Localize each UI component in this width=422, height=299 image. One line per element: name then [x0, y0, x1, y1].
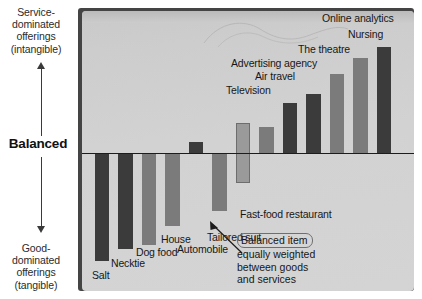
axis-bottom-line1: Good- [0, 242, 74, 254]
bar-air-travel [283, 103, 298, 153]
axis-top-line1: Service- [0, 6, 74, 18]
axis-bottom-line3: offerings [0, 266, 74, 278]
bar-label-advertising-agency: Advertising agency [231, 57, 317, 69]
bar-online-analytics [377, 47, 392, 153]
bar-nursing [353, 58, 368, 153]
callout-line-1: Balanced item [237, 233, 313, 248]
bar-house [165, 153, 180, 226]
bar-label-dog-food: Dog food [136, 246, 177, 258]
bar-tailored-suit [212, 153, 227, 211]
bar-label-fast-food-restaurant: Fast-food restaurant [240, 208, 332, 220]
bar-automobile [189, 142, 204, 153]
bar-label-necktie: Necktie [111, 257, 145, 269]
axis-label-top: Service- dominated offerings (intangible… [0, 6, 74, 55]
balanced-baseline [82, 153, 414, 154]
bar-salt [95, 153, 110, 261]
bar-the-theatre [330, 74, 345, 153]
chart-figure: Service- dominated offerings (intangible… [0, 0, 422, 299]
callout-line-3: between goods [237, 261, 308, 273]
axis-bottom-line2: dominated [0, 254, 74, 266]
axis-bottom-line4: (tangible) [0, 279, 74, 291]
arrow-down-shaft [41, 157, 42, 229]
arrow-down-icon [37, 226, 45, 233]
bar-label-automobile: Automobile [177, 243, 228, 255]
axis-top-line2: dominated [0, 18, 74, 30]
callout-line-4: and services [237, 273, 296, 285]
bar-label-air-travel: Air travel [255, 70, 295, 82]
bar-label-the-theatre: The theatre [298, 43, 350, 55]
bar-label-online-analytics: Online analytics [322, 12, 394, 24]
balanced-item-callout: Balanced item equally weighted between g… [237, 233, 315, 286]
axis-label-bottom: Good- dominated offerings (tangible) [0, 242, 74, 291]
bar-necktie [118, 153, 133, 249]
bar-label-television: Television [226, 84, 271, 96]
axis-label-balanced: Balanced [0, 136, 76, 151]
bar-dog-food [142, 153, 157, 245]
axis-top-line3: offerings [0, 30, 74, 42]
axis-top-line4: (intangible) [0, 43, 74, 55]
arrow-up-shaft [41, 66, 42, 136]
bar-advertising-agency [306, 94, 321, 153]
bar-television [259, 127, 274, 153]
callout-line-2: equally weighted [237, 248, 315, 260]
bar-label-nursing: Nursing [348, 28, 383, 40]
bar-label-salt: Salt [92, 269, 110, 281]
